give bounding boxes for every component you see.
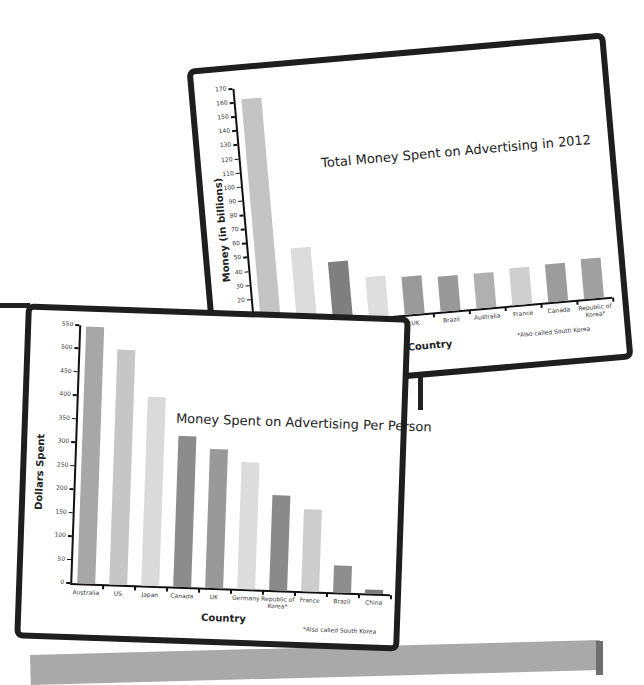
- bar: [474, 272, 497, 309]
- y-tick-label: 250: [46, 460, 68, 468]
- y-tick-label: 40: [220, 267, 243, 276]
- y-tick-label: 140: [208, 127, 231, 136]
- bar: [77, 326, 104, 584]
- bar: [545, 263, 568, 303]
- y-tick-label: 60: [218, 239, 241, 248]
- bar: [365, 275, 388, 318]
- y-axis-label: Dollars Spent: [33, 434, 47, 511]
- plot-area: 050100150200250300350400450500550Austral…: [70, 325, 399, 594]
- y-tick-label: 500: [50, 343, 72, 351]
- bar: [402, 275, 425, 315]
- plot-area: 0102030405060708090100110120130140150160…: [232, 58, 612, 328]
- y-tick-label: 80: [215, 211, 238, 220]
- x-tick-label: Canada: [539, 305, 579, 315]
- bar: [438, 275, 461, 312]
- shelf-edge: [596, 641, 603, 675]
- x-tick-label: Australia: [467, 311, 507, 321]
- x-axis-label: Country: [407, 338, 452, 353]
- bar: [328, 260, 353, 321]
- bar: [241, 98, 281, 328]
- y-tick-label: 100: [213, 183, 236, 192]
- y-tick-label: 200: [45, 483, 67, 491]
- y-tick-label: 50: [43, 554, 65, 562]
- y-tick-label: 0: [42, 577, 64, 585]
- y-tick-label: 50: [219, 253, 242, 262]
- bar: [173, 436, 196, 588]
- bar: [581, 258, 604, 299]
- y-tick-label: 110: [211, 169, 234, 178]
- y-tick-label: 150: [45, 507, 67, 515]
- y-tick-label: 30: [221, 281, 244, 290]
- y-tick-label: 120: [210, 155, 233, 164]
- x-tick-label: Brazil: [431, 314, 471, 324]
- y-tick-label: 70: [216, 225, 239, 234]
- y-tick-label: 170: [204, 85, 227, 94]
- bar: [365, 590, 383, 594]
- bar: [509, 267, 532, 305]
- footnote: *Also called South Korea: [517, 325, 591, 338]
- y-tick-label: 350: [48, 413, 70, 421]
- y-tick-label: 550: [51, 319, 73, 327]
- x-tick-label: Republic of Korea*: [575, 302, 616, 319]
- y-tick-label: 160: [205, 99, 228, 108]
- x-tick-label: France: [503, 308, 543, 318]
- bar: [141, 397, 165, 586]
- footnote: *Also called South Korea: [303, 625, 377, 635]
- y-tick-label: 130: [209, 141, 232, 150]
- y-tick-label: 450: [50, 366, 72, 374]
- y-tick-label: 300: [47, 436, 69, 444]
- y-tick-label: 150: [207, 113, 230, 122]
- y-tick-label: 400: [49, 390, 71, 398]
- x-tick-label: China: [354, 598, 394, 606]
- bar: [237, 462, 259, 589]
- bar: [333, 566, 352, 593]
- bar: [301, 509, 321, 592]
- y-tick-label: 100: [44, 530, 66, 538]
- chart-card-per-person: Money Spent on Advertising Per Person Do…: [14, 303, 410, 651]
- y-tick-label: 90: [214, 197, 237, 206]
- bar: [269, 495, 290, 590]
- bar: [109, 350, 135, 585]
- y-tick-label: 20: [223, 295, 246, 304]
- bar: [205, 449, 227, 589]
- x-axis-label: Country: [201, 612, 246, 625]
